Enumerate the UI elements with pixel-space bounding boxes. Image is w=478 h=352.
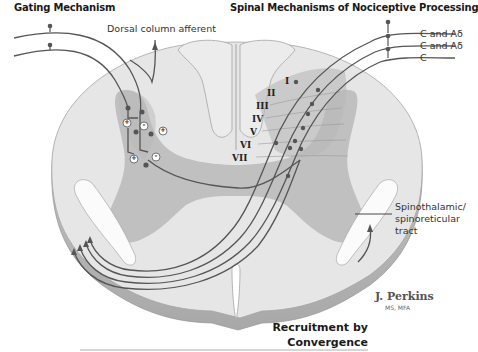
lamina-label-ii: II xyxy=(267,88,275,98)
tract-label-line3: tract xyxy=(395,225,466,237)
sign-minus-1: - xyxy=(141,121,147,129)
fiber-label-c-adelta-1: C and Aδ xyxy=(420,28,463,39)
sign-plus-1: + xyxy=(124,118,130,126)
artist-signature: J. Perkins xyxy=(375,290,434,303)
fiber-label-c-adelta-2: C and Aδ xyxy=(420,40,463,51)
lamina-label-vi: VI xyxy=(240,140,251,150)
caption-line2: Convergence xyxy=(260,335,368,350)
caption: Recruitment by Convergence xyxy=(260,320,368,350)
tract-label-line2: spinoreticular xyxy=(395,213,466,225)
nociceptive-processing-title: Spinal Mechanisms of Nociceptive Process… xyxy=(230,2,478,13)
sign-plus-3: + xyxy=(131,154,137,162)
sign-plus-2: + xyxy=(160,126,166,134)
tract-label-line1: Spinothalamic/ xyxy=(395,201,466,213)
caption-line1: Recruitment by xyxy=(260,320,368,335)
lamina-label-iv: IV xyxy=(252,114,263,124)
lamina-label-vii: VII xyxy=(232,153,247,163)
dorsal-column-afferent-label: Dorsal column afferent xyxy=(107,23,216,34)
lamina-label-i: I xyxy=(285,76,289,86)
fiber-label-c: C xyxy=(420,52,427,63)
lamina-label-iii: III xyxy=(256,101,269,111)
gating-mechanism-title: Gating Mechanism xyxy=(14,2,115,13)
sign-minus-2: - xyxy=(153,152,159,160)
lamina-label-v: V xyxy=(250,127,257,137)
tract-label: Spinothalamic/ spinoreticular tract xyxy=(395,201,466,237)
artist-credentials: MS, MFA xyxy=(385,304,410,311)
